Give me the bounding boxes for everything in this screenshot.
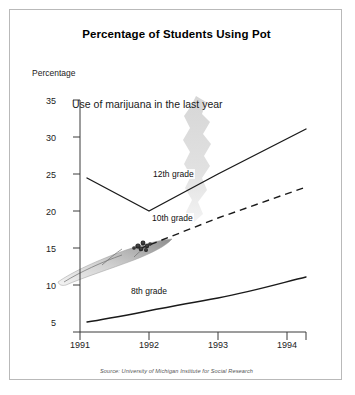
- series-label-10th-grade: 10th grade: [151, 213, 194, 223]
- series-label-12th-grade: 12th grade: [152, 169, 195, 179]
- source-note: Source: University of Michigan Institute…: [10, 368, 343, 374]
- chart-figure: Percentage of Students Using Pot Percent…: [9, 9, 342, 380]
- y-tick-marks: [73, 100, 80, 332]
- smoke-plume-icon: [183, 96, 211, 224]
- series-line-8th-grade: [87, 277, 306, 322]
- x-tick-marks: [80, 332, 306, 340]
- marijuana-leaf-icon: [58, 239, 172, 285]
- series-label-8th-grade: 8th grade: [130, 286, 168, 296]
- chart-annotation: Use of marijuana in the last year: [72, 98, 223, 110]
- plot-area: [10, 10, 343, 381]
